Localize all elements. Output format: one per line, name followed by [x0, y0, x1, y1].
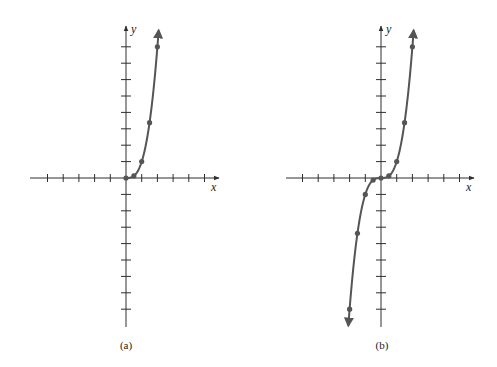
- data-point: [378, 175, 383, 180]
- data-point: [155, 44, 160, 49]
- figure-canvas: y x (a) y x (b): [0, 0, 497, 367]
- data-point: [386, 173, 391, 178]
- data-point: [123, 175, 128, 180]
- data-point: [147, 120, 152, 125]
- data-point: [347, 307, 352, 312]
- x-axis-label: x: [465, 180, 472, 194]
- graph-panel-a: [30, 26, 219, 327]
- data-point: [131, 173, 136, 178]
- y-axis-label: y: [130, 22, 137, 36]
- panel-caption-a: (a): [120, 339, 133, 352]
- data-point: [410, 44, 415, 49]
- data-point: [402, 120, 407, 125]
- data-point: [139, 159, 144, 164]
- cubic-curve: [126, 30, 159, 178]
- graph-panel-b: [286, 26, 474, 327]
- y-axis-label: y: [385, 22, 392, 36]
- panel-caption-b: (b): [376, 339, 389, 352]
- data-point: [371, 177, 376, 182]
- data-point: [363, 192, 368, 197]
- data-point: [355, 231, 360, 236]
- x-axis-label: x: [210, 180, 217, 194]
- data-point: [394, 159, 399, 164]
